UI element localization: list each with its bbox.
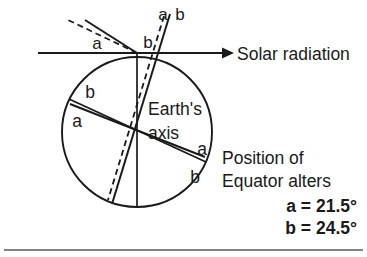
value-b-label: b = 24.5° [285,218,357,238]
label-equator-lower-right-a: a [197,139,207,159]
earth-axis-label-line2: axis [148,123,179,143]
caption-line-1: Position of [222,148,304,168]
solar-radiation-label: Solar radiation [237,44,350,64]
value-a-label: a = 21.5° [286,196,357,216]
label-vertex-b: b [143,33,152,52]
label-equator-lower-right-b: b [190,167,200,187]
caption-line-2: Equator alters [222,171,331,191]
label-top-a: a [158,5,168,24]
earth-axis-label-line1: Earth's [148,99,202,119]
label-top-b: b [175,5,184,24]
obliquity-diagram: a b a b b a a b Earth's axis Solar radia… [0,0,367,257]
label-equator-upper-left-a: a [72,111,82,131]
label-equator-upper-left-b: b [85,82,95,102]
label-upper-left-a: a [92,34,102,53]
